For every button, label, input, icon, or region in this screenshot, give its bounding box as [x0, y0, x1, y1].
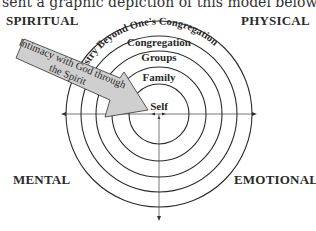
axes [61, 112, 257, 221]
label-family: Family [143, 71, 176, 83]
label-congregation: Congregation [127, 36, 191, 48]
arrowhead-down-icon [157, 216, 161, 221]
center-arrow-left-icon [151, 113, 155, 116]
intimacy-arrow: Intimacy with God through the Spirit [13, 36, 148, 117]
arrowhead-left-icon [61, 112, 66, 116]
concentric-model-diagram: Ministry Beyond One's Congregation Congr… [0, 0, 316, 231]
label-self: Self [150, 100, 168, 112]
label-groups: Groups [141, 51, 177, 63]
arrowhead-right-icon [252, 112, 257, 116]
center-arrow-up-icon [158, 116, 161, 119]
center-arrow-right-icon [162, 113, 166, 116]
